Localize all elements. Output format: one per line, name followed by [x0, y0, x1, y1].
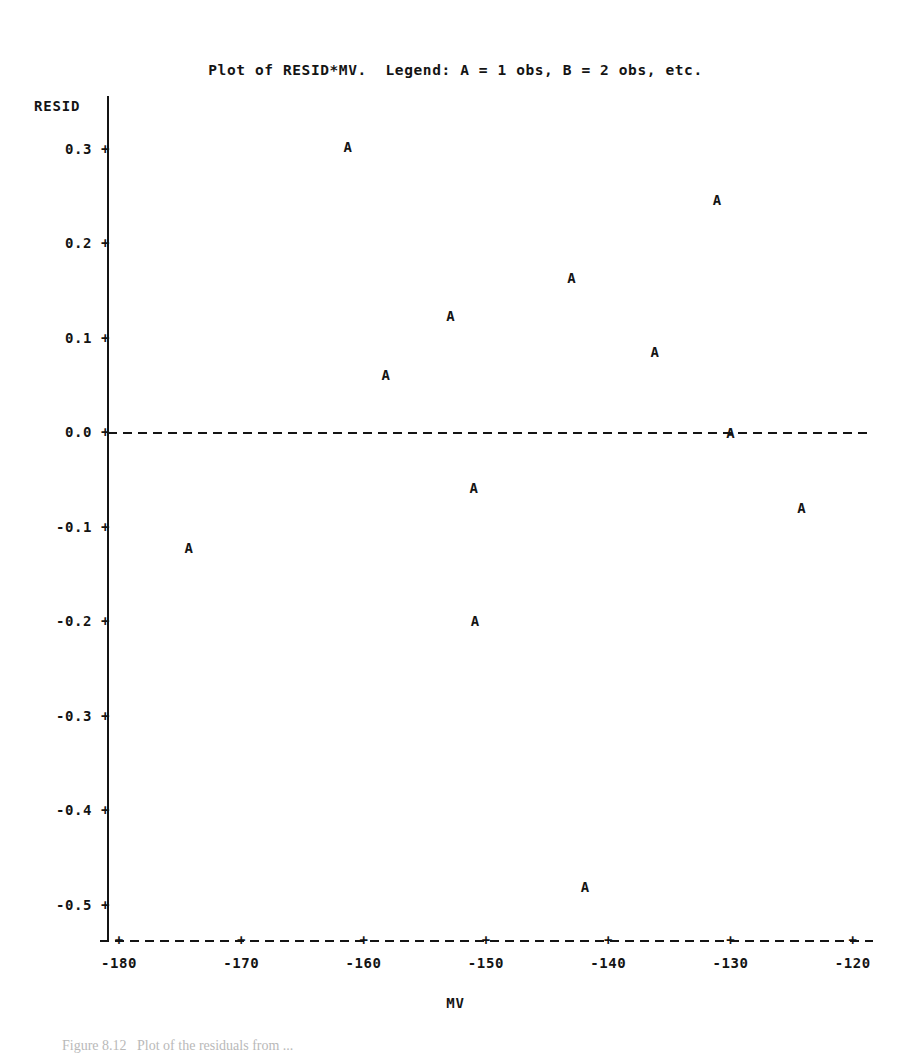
data-point-marker: A [581, 880, 589, 894]
y-axis-tick-label: 0.1 [65, 330, 92, 346]
y-axis-tick-mark: + [101, 802, 109, 818]
data-point-marker: A [184, 541, 192, 555]
y-axis-tick-mark: + [101, 141, 109, 157]
y-axis-tick-label: -0.5 [56, 897, 92, 913]
data-point-marker: A [797, 501, 805, 515]
y-axis-tick-mark: + [101, 708, 109, 724]
x-axis-title: MV [0, 995, 911, 1011]
data-point-marker: A [471, 614, 479, 628]
x-axis-tick-mark: + [115, 932, 123, 948]
y-axis-tick-label: 0.0 [65, 424, 92, 440]
x-axis-tick-mark: + [604, 932, 612, 948]
y-axis-tick-label: -0.4 [56, 802, 92, 818]
y-axis-tick-mark: + [101, 519, 109, 535]
y-axis-tick-mark: + [101, 613, 109, 629]
y-axis-tick-label: 0.2 [65, 235, 92, 251]
y-axis-tick-mark: + [101, 897, 109, 913]
plot-title: Plot of RESID*MV. Legend: A = 1 obs, B =… [0, 62, 911, 78]
data-point-marker: A [650, 345, 658, 359]
data-point-marker: A [381, 368, 389, 382]
x-axis-tick-mark: + [237, 932, 245, 948]
x-axis-tick-label: -130 [712, 955, 748, 971]
scatter-plot-figure: Plot of RESID*MV. Legend: A = 1 obs, B =… [0, 0, 911, 1053]
x-axis-tick-mark: + [482, 932, 490, 948]
x-axis-tick-label: -170 [223, 955, 259, 971]
x-axis-tick-mark: + [359, 932, 367, 948]
x-axis-tick-label: -140 [590, 955, 626, 971]
data-point-marker: A [726, 426, 734, 440]
data-point-marker: A [567, 271, 575, 285]
y-axis-tick-mark: + [101, 330, 109, 346]
zero-reference-line [108, 432, 873, 434]
y-axis-title: RESID [34, 98, 80, 114]
y-axis-tick-label: 0.3 [65, 141, 92, 157]
x-axis-tick-label: -150 [468, 955, 504, 971]
x-axis-tick-label: -120 [835, 955, 871, 971]
data-point-marker: A [469, 481, 477, 495]
figure-caption: Figure 8.12 Plot of the residuals from .… [62, 1038, 293, 1053]
data-point-marker: A [713, 193, 721, 207]
x-axis-tick-mark: + [726, 932, 734, 948]
x-axis-tick-mark: + [849, 932, 857, 948]
x-axis-tick-label: -180 [101, 955, 137, 971]
y-axis-tick-label: -0.1 [56, 519, 92, 535]
y-axis-tick-label: -0.2 [56, 613, 92, 629]
data-point-marker: A [343, 140, 351, 154]
y-axis-tick-mark: + [101, 235, 109, 251]
y-axis-tick-label: -0.3 [56, 708, 92, 724]
x-axis-tick-label: -160 [346, 955, 382, 971]
data-point-marker: A [446, 309, 454, 323]
